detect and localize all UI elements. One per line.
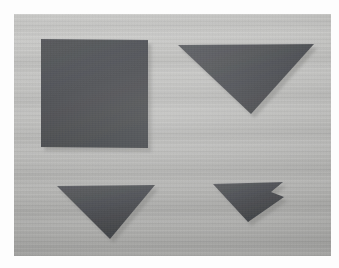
shape-square (41, 39, 148, 148)
shapes-svg (14, 14, 331, 256)
photo-frame (0, 0, 339, 268)
shape-notched-triangle (213, 182, 284, 222)
shape-large-triangle (178, 44, 314, 114)
paper-shapes-layer (14, 14, 331, 256)
shape-medium-triangle (57, 185, 155, 239)
photograph (14, 14, 331, 256)
